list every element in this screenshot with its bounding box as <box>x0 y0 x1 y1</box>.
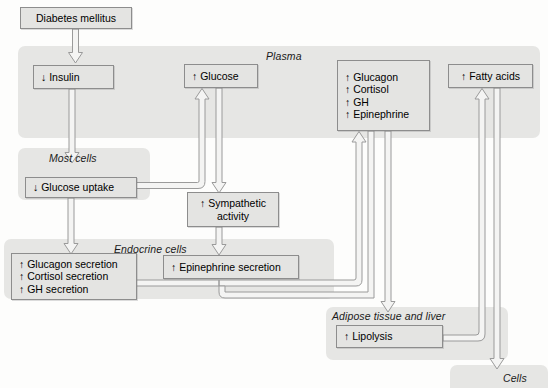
node-hormones-line-3: ↑ GH <box>345 96 422 108</box>
label-plasma: Plasma <box>266 50 302 62</box>
node-decreased-glucose-uptake-line-1: ↓ Glucose uptake <box>33 181 129 193</box>
node-increased-sympathetic-activity[interactable]: ↑ Sympathetic activity <box>187 192 279 227</box>
node-sympathetic-line-1: ↑ Sympathetic <box>195 197 271 209</box>
node-increased-fatty-acids[interactable]: ↑ Fatty acids <box>448 64 533 88</box>
node-sympathetic-line-2: activity <box>195 210 271 222</box>
arrow-sympathetic-to-epinephrine-secretion <box>212 227 226 255</box>
node-epinephrine-secretion-line-1: ↑ Epinephrine secretion <box>171 261 291 273</box>
label-most-cells: Most cells <box>49 152 97 164</box>
arrow-fatty-acids-to-cells <box>490 88 504 369</box>
arrow-hormones-to-lipolysis <box>381 131 395 312</box>
arrow-diabetes-to-insulin <box>69 29 83 63</box>
node-increased-epinephrine-secretion[interactable]: ↑ Epinephrine secretion <box>163 255 299 279</box>
node-increased-lipolysis[interactable]: ↑ Lipolysis <box>336 325 443 348</box>
node-diabetes-mellitus-line-1: Diabetes mellitus <box>28 12 124 24</box>
node-hormones-line-4: ↑ Epinephrine <box>345 108 422 120</box>
node-increased-fatty-acids-line-1: ↑ Fatty acids <box>456 70 525 82</box>
arrow-glucose-uptake-to-endocrine-secretion <box>64 198 78 254</box>
node-decreased-insulin[interactable]: ↓ Insulin <box>33 65 114 89</box>
node-increased-glucose[interactable]: ↑ Glucose <box>184 64 258 88</box>
label-cells: Cells <box>503 372 527 384</box>
arrow-glucose-uptake-to-glucose <box>136 89 209 189</box>
node-endocrine-hormone-secretion[interactable]: ↑ Glucagon secretion ↑ Cortisol secretio… <box>11 253 137 300</box>
node-increased-lipolysis-line-1: ↑ Lipolysis <box>344 330 435 342</box>
node-increased-glucose-line-1: ↑ Glucose <box>192 70 250 82</box>
node-counterregulatory-hormones[interactable]: ↑ Glucagon ↑ Cortisol ↑ GH ↑ Epinephrine <box>337 60 430 131</box>
arrow-lipolysis-to-fatty-acids <box>443 89 489 342</box>
node-endocrine-secretion-line-2: ↑ Cortisol secretion <box>19 270 129 282</box>
node-diabetes-mellitus[interactable]: Diabetes mellitus <box>20 7 132 29</box>
node-decreased-insulin-line-1: ↓ Insulin <box>41 71 106 83</box>
node-hormones-line-2: ↑ Cortisol <box>345 83 422 95</box>
node-endocrine-secretion-line-1: ↑ Glucagon secretion <box>19 258 129 270</box>
diagram-canvas: Plasma Most cells Endocrine cells Adipos… <box>0 0 548 388</box>
node-hormones-line-1: ↑ Glucagon <box>345 71 422 83</box>
arrow-glucose-to-sympathetic <box>212 88 226 193</box>
label-adipose-tissue-and-liver: Adipose tissue and liver <box>332 310 445 322</box>
node-decreased-glucose-uptake[interactable]: ↓ Glucose uptake <box>25 177 137 198</box>
node-endocrine-secretion-line-3: ↑ GH secretion <box>19 283 129 295</box>
